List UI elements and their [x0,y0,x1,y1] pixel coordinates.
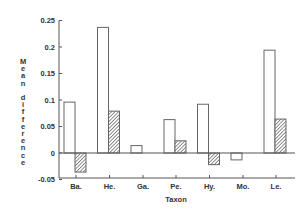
y-tick-label: -0.05 [38,175,55,184]
open-bar [164,120,175,153]
y-tick-label: 0 [51,149,55,158]
x-tick-label: Le. [271,182,282,191]
hatched-bar [275,119,286,153]
open-bar [64,102,75,153]
x-tick-label: Hy. [204,182,215,191]
x-tick-label: Ba. [70,182,82,191]
open-bar [264,50,275,153]
x-axis-label: Taxon [165,195,187,204]
hatched-bar [109,111,120,153]
x-tick-label: Ga. [137,182,149,191]
bar-chart: 0.250.20.150.10.050-0.05Ba.He.Ga.Pe.Hy.M… [0,0,305,211]
bars-group [64,27,286,172]
open-bar [131,146,142,153]
x-tick-label: Pe. [170,182,181,191]
x-tick-label: Mo. [237,182,250,191]
y-tick-label: 0.1 [45,96,55,105]
hatched-bar [75,153,86,172]
y-tick-label: 0.2 [45,43,55,52]
y-tick-label: 0.25 [40,16,55,25]
open-bar [198,104,209,153]
y-tick-label: 0.15 [40,69,55,78]
hatched-bar [209,153,220,165]
open-bar [231,153,242,160]
hatched-bar [175,141,186,153]
y-tick-label: 0.05 [40,122,55,131]
open-bar [98,27,109,153]
x-tick-label: He. [104,182,116,191]
